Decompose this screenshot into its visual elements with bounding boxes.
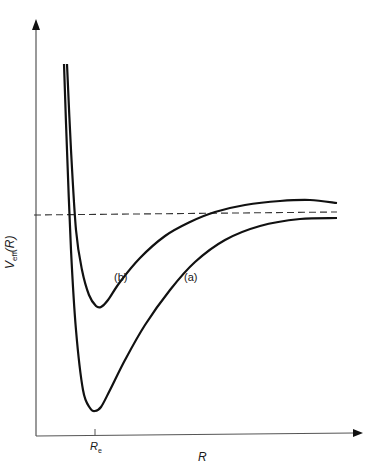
re-tick-label: Re [90, 440, 102, 454]
curve-b [67, 64, 337, 308]
x-axis-arrow-icon [353, 429, 363, 437]
y-axis-label: Veff(R) [3, 235, 19, 268]
curve-b-label: (b) [114, 271, 127, 283]
dissociation-dashed-line [34, 212, 337, 215]
x-axis-label: R [198, 450, 207, 464]
potential-energy-diagram [0, 0, 371, 469]
x-axis [36, 433, 354, 436]
y-axis-arrow-icon [32, 19, 40, 30]
curve-a-label: (a) [184, 271, 197, 283]
curve-a [64, 64, 337, 411]
